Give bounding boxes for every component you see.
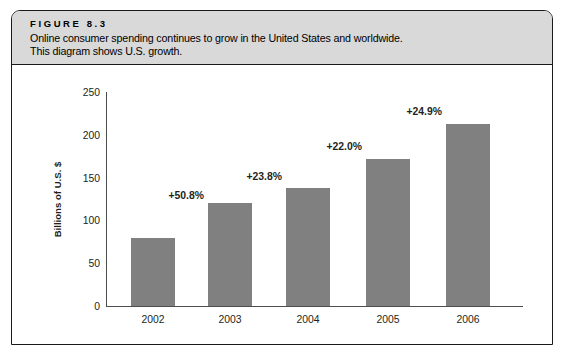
figure-number-label: FIGURE 8.3 [30,18,552,30]
y-axis-line [106,92,107,307]
x-axis-line [106,306,523,307]
bar-2002[interactable] [131,238,175,307]
bar-chart: Billions of U.S. $ 250 200 150 100 50 0 … [12,65,552,344]
figure-caption-line-1: Online consumer spending continues to gr… [30,32,552,45]
figure-caption-line-2: This diagram shows U.S. growth. [30,45,552,58]
x-tick-2002: 2002 [123,314,183,325]
growth-label-2006: +24.9% [406,106,442,117]
figure-frame: FIGURE 8.3 Online consumer spending cont… [11,10,553,345]
x-tick-2006: 2006 [438,314,498,325]
x-tick-2005: 2005 [358,314,418,325]
y-axis-title: Billions of U.S. $ [52,140,63,260]
figure-caption-band: FIGURE 8.3 Online consumer spending cont… [12,11,552,65]
growth-label-2004: +23.8% [246,171,282,182]
growth-label-2005: +22.0% [326,141,362,152]
bar-2003[interactable] [208,203,252,306]
x-tick-2004: 2004 [278,314,338,325]
bar-2005[interactable] [366,159,410,306]
x-tick-2003: 2003 [200,314,260,325]
bar-2006[interactable] [446,124,490,306]
bar-2004[interactable] [286,188,330,306]
growth-label-2003: +50.8% [168,190,204,201]
